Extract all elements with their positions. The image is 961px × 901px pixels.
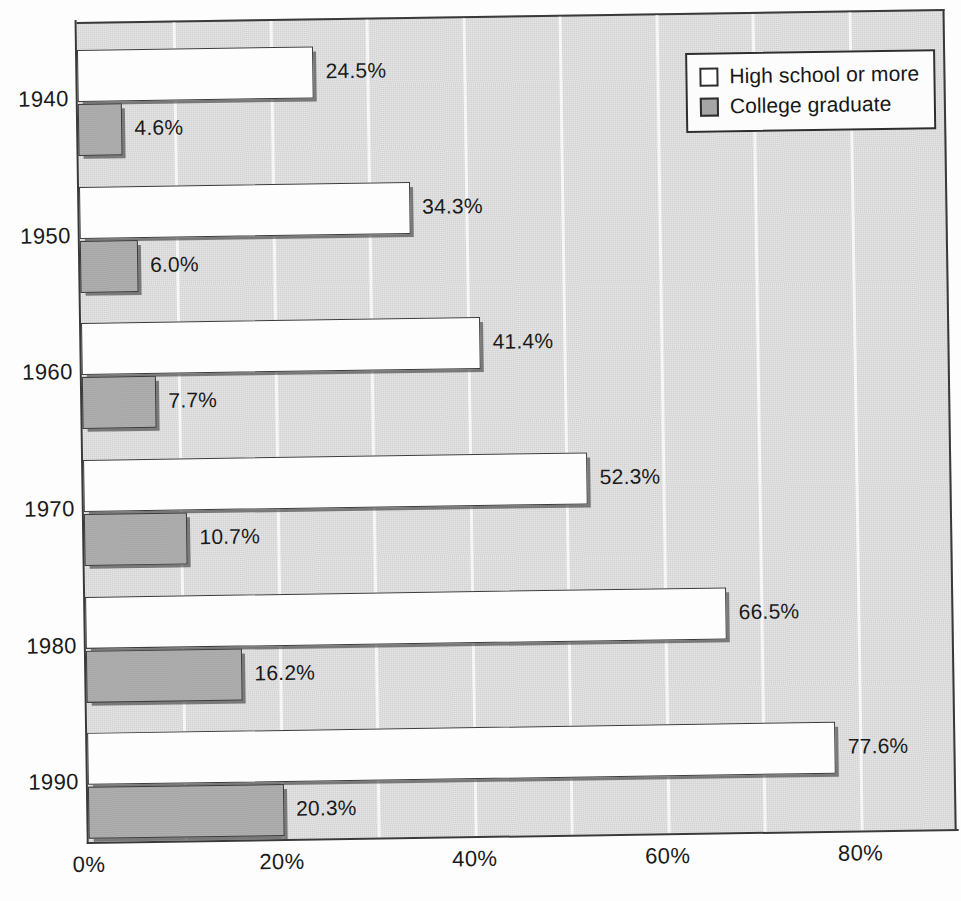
x-tick-label-40: 40% <box>452 846 498 873</box>
category-label-1950: 1950 <box>0 223 71 250</box>
category-label-1980: 1980 <box>0 633 77 660</box>
bar-hs-1970 <box>83 452 588 511</box>
bar-cg-1960 <box>82 376 157 429</box>
bar-value-label: 77.6% <box>848 734 909 759</box>
bar-value-label: 20.3% <box>296 796 357 821</box>
bar-hs-1960 <box>81 317 481 375</box>
bar-group: 52.3%10.7% <box>83 421 951 570</box>
bar-cg-1970 <box>84 512 188 566</box>
bar-hs-1990 <box>87 722 836 785</box>
category-axis-labels: 194019501960197019801990 <box>0 22 80 843</box>
bar-value-label: 16.2% <box>254 660 315 685</box>
bar-hs-1940 <box>77 46 314 101</box>
x-tick-label-80: 80% <box>838 840 884 867</box>
bar-value-label: 24.5% <box>325 58 386 83</box>
x-tick-label-20: 20% <box>259 849 305 876</box>
bar-value-label: 52.3% <box>600 464 661 489</box>
legend-swatch-hollow-square-icon <box>699 67 718 86</box>
legend-item-college-graduate: College graduate <box>700 88 920 121</box>
bar-group: 41.4%7.7% <box>81 284 949 433</box>
bars-layer: 24.5%4.6%34.3%6.0%41.4%7.7%52.3%10.7%66.… <box>77 11 943 24</box>
chart-figure: 24.5%4.6%34.3%6.0%41.4%7.7%52.3%10.7%66.… <box>0 0 961 901</box>
bar-cg-1990 <box>88 784 285 839</box>
bar-group: 66.5%16.2% <box>85 558 953 707</box>
legend-label-high-school: High school or more <box>729 61 919 88</box>
category-label-1990: 1990 <box>1 769 79 796</box>
legend-label-college-graduate: College graduate <box>730 92 892 118</box>
legend-swatch-filled-gray-square-icon <box>700 97 719 116</box>
bar-value-label: 34.3% <box>422 194 483 219</box>
bar-group: 34.3%6.0% <box>79 148 947 297</box>
x-axis-tick-labels: 0%20%40%60%80% <box>0 839 961 893</box>
bar-value-label: 6.0% <box>150 252 199 277</box>
x-tick-label-60: 60% <box>645 843 691 870</box>
legend-item-high-school: High school or more <box>699 58 919 91</box>
bar-hs-1950 <box>79 182 411 239</box>
chart-legend: High school or more College graduate <box>685 49 936 133</box>
bar-hs-1980 <box>85 587 727 649</box>
bar-cg-1950 <box>80 240 139 293</box>
x-tick-label-0: 0% <box>73 852 106 878</box>
chart-skew-wrapper: 24.5%4.6%34.3%6.0%41.4%7.7%52.3%10.7%66.… <box>0 0 961 901</box>
bar-cg-1980 <box>86 648 243 702</box>
bar-value-label: 41.4% <box>492 329 553 354</box>
category-label-1970: 1970 <box>0 496 75 523</box>
bar-value-label: 66.5% <box>739 599 800 624</box>
bar-value-label: 7.7% <box>168 388 217 413</box>
bar-cg-1940 <box>78 103 123 156</box>
bar-value-label: 10.7% <box>199 524 260 549</box>
bar-value-label: 4.6% <box>134 115 183 140</box>
category-label-1960: 1960 <box>0 359 73 386</box>
category-label-1940: 1940 <box>0 86 69 113</box>
bar-group: 77.6%20.3% <box>87 694 955 843</box>
plot-area: 24.5%4.6%34.3%6.0%41.4%7.7%52.3%10.7%66.… <box>77 9 957 842</box>
